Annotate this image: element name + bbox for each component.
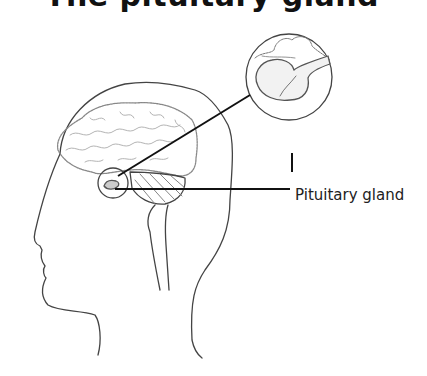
pituitary-gland xyxy=(104,181,119,190)
brainstem xyxy=(148,205,160,290)
leader-line-inset xyxy=(118,95,250,176)
face-outline xyxy=(34,154,100,355)
head-outline xyxy=(60,82,232,358)
pituitary-gland-label: Pituitary gland xyxy=(295,186,404,204)
inset-gland xyxy=(256,56,330,100)
